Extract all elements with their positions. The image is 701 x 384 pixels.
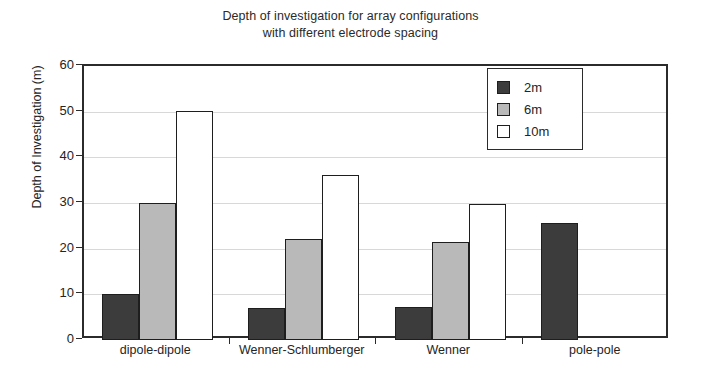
bar <box>139 203 176 340</box>
chart-title-line-1: Depth of investigation for array configu… <box>0 8 701 25</box>
bar <box>176 111 213 340</box>
chart-title: Depth of investigation for array configu… <box>0 8 701 42</box>
y-axis-tick-label: 60 <box>44 57 74 72</box>
chart-title-line-2: with different electrode spacing <box>0 25 701 42</box>
y-axis-tick-label: 30 <box>44 194 74 209</box>
y-axis-tick-label: 50 <box>44 102 74 117</box>
x-axis-tick-label: dipole-dipole <box>120 343 191 357</box>
bar <box>395 307 432 340</box>
legend-item-label: 10m <box>524 124 549 139</box>
y-axis-tick-label: 0 <box>44 331 74 346</box>
x-axis-tick-label: pole-pole <box>569 343 620 357</box>
legend-swatch-icon <box>497 125 510 138</box>
bar <box>285 239 322 340</box>
legend-item-label: 2m <box>524 80 542 95</box>
x-axis-tick-label: Wenner <box>426 343 470 357</box>
legend-item[interactable]: 10m <box>497 120 573 142</box>
x-axis-tick-labels: dipole-dipoleWenner-SchlumbergerWennerpo… <box>82 343 668 367</box>
bar <box>248 308 285 340</box>
legend-item-label: 6m <box>524 102 542 117</box>
y-axis-tick-label: 40 <box>44 148 74 163</box>
bar <box>541 223 578 340</box>
y-axis-tick-label: 20 <box>44 239 74 254</box>
legend-item[interactable]: 2m <box>497 76 573 98</box>
y-axis-tick-labels: 0102030405060 <box>40 64 74 338</box>
bar <box>469 204 506 340</box>
legend-swatch-icon <box>497 81 510 94</box>
bar <box>102 294 139 340</box>
bar <box>322 175 359 340</box>
chart-legend: 2m6m10m <box>487 68 583 150</box>
bar <box>432 242 469 340</box>
legend-swatch-icon <box>497 103 510 116</box>
legend-item[interactable]: 6m <box>497 98 573 120</box>
x-axis-tick-label: Wenner-Schlumberger <box>239 343 365 357</box>
y-axis-tick-label: 10 <box>44 285 74 300</box>
